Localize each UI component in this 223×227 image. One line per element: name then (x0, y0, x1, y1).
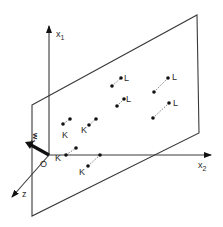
k-point-pair: K (79, 153, 102, 177)
svg-text:L: L (124, 73, 129, 83)
k-point-pair: K (81, 117, 98, 135)
l-point-pair: L (152, 72, 177, 94)
separating-plane-diagram: x1 x2 z O w1 K K K K (0, 0, 223, 227)
l-point-pair: L (110, 73, 129, 88)
z-axis-label: z (22, 189, 27, 199)
svg-text:K: K (55, 153, 61, 163)
class-l-points: L L L L (110, 72, 178, 120)
k-point-pair: K (61, 117, 72, 140)
l-point-pair: L (151, 98, 178, 120)
svg-text:L: L (126, 94, 131, 104)
weight-vector-w1 (25, 141, 49, 155)
x1-axis-label: x1 (56, 29, 65, 41)
x2-axis-label: x2 (198, 160, 207, 172)
svg-text:K: K (79, 167, 85, 177)
svg-text:K: K (81, 125, 87, 135)
svg-text:L: L (172, 72, 177, 82)
origin-label: O (40, 159, 47, 169)
w1-label: w1 (30, 132, 40, 143)
separating-plane (32, 15, 199, 216)
l-point-pair: L (115, 94, 131, 108)
svg-text:L: L (173, 98, 178, 108)
svg-text:K: K (62, 130, 68, 140)
class-k-points: K K K K (55, 117, 102, 177)
